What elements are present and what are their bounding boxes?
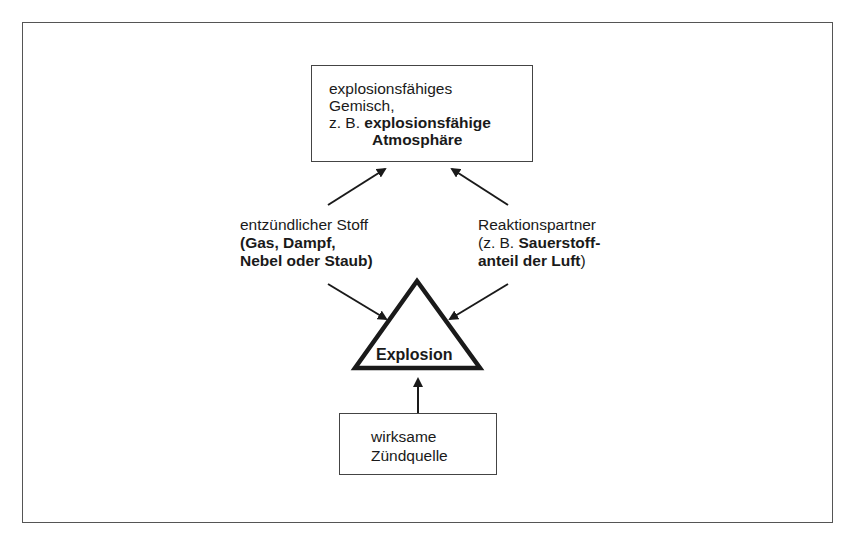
- air-share-bold: anteil der Luft: [478, 252, 580, 269]
- explosion-label: Explosion: [376, 346, 452, 364]
- flammable-substance-line1: entzündlicher Stoff: [240, 216, 368, 233]
- closing-paren: ): [580, 252, 585, 269]
- reaction-partner-line3: anteil der Luft): [478, 252, 586, 269]
- flammable-substance-line3: Nebel oder Staub): [240, 252, 373, 269]
- reaction-partner-line1: Reaktionspartner: [478, 216, 596, 233]
- arrow-left-to-triangle-icon: [328, 284, 386, 319]
- example-prefix: z. B.: [329, 114, 364, 131]
- arrow-left-to-top-icon: [328, 169, 385, 205]
- example-prefix: (z. B.: [478, 234, 518, 251]
- explosive-atmosphere-bold: explosionsfähige: [364, 114, 491, 131]
- ignition-source-line1: wirksame: [371, 428, 436, 445]
- arrow-right-to-triangle-icon: [450, 284, 508, 319]
- explosive-mixture-line3: z. B. explosionsfähige: [329, 114, 491, 131]
- explosive-mixture-line2: Gemisch,: [329, 97, 394, 114]
- ignition-source-line2: Zündquelle: [371, 447, 448, 464]
- flammable-substance-line2: (Gas, Dampf,: [240, 234, 336, 251]
- explosive-mixture-line4: Atmosphäre: [372, 131, 462, 148]
- arrow-right-to-top-icon: [452, 169, 508, 205]
- reaction-partner-line2: (z. B. Sauerstoff-: [478, 234, 600, 251]
- oxygen-bold: Sauerstoff-: [518, 234, 600, 251]
- explosive-mixture-line1: explosionsfähiges: [329, 80, 452, 97]
